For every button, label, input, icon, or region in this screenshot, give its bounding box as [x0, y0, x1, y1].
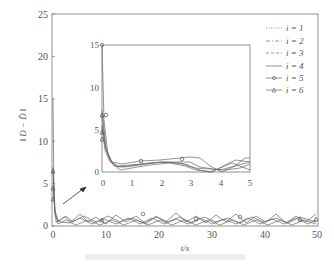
svg-text:i = 3: i = 3 — [286, 48, 304, 58]
svg-text:10: 10 — [101, 229, 111, 240]
svg-text:i = 2: i = 2 — [286, 36, 304, 46]
svg-text:i = 5: i = 5 — [286, 73, 304, 83]
svg-text:50: 50 — [312, 229, 322, 240]
svg-text:15: 15 — [38, 93, 48, 104]
svg-text:20: 20 — [38, 51, 48, 62]
svg-text:0: 0 — [43, 220, 48, 231]
svg-text:15: 15 — [90, 40, 100, 50]
error-norm-chart: 0510 152025 01020 304050 t/s ‖ D − D̂ ‖ … — [0, 0, 334, 265]
zoom-arrow — [63, 187, 86, 204]
svg-text:10: 10 — [38, 136, 48, 147]
x-axis-tick-labels: 01020 304050 — [51, 229, 323, 240]
svg-text:2: 2 — [160, 178, 165, 188]
inset-plot: 051015 012 345 — [90, 40, 253, 188]
svg-text:i = 6: i = 6 — [286, 85, 304, 95]
y-axis-label: ‖ D − D̂ ‖ — [18, 108, 28, 141]
svg-text:10: 10 — [90, 83, 100, 93]
svg-text:25: 25 — [38, 9, 48, 20]
legend: i = 1i = 2i = 3 i = 4i = 5i = 6 — [266, 23, 304, 95]
svg-text:5: 5 — [95, 125, 100, 135]
main-markers — [51, 169, 318, 222]
svg-text:0: 0 — [51, 229, 56, 240]
svg-text:4: 4 — [219, 178, 224, 188]
svg-text:0: 0 — [95, 167, 100, 177]
svg-text:30: 30 — [207, 229, 217, 240]
figure-caption — [85, 254, 245, 260]
svg-text:5: 5 — [248, 178, 253, 188]
svg-text:5: 5 — [43, 178, 48, 189]
svg-text:1: 1 — [130, 178, 135, 188]
svg-text:3: 3 — [189, 178, 194, 188]
x-axis-label: t/s — [181, 243, 190, 253]
svg-text:40: 40 — [260, 229, 270, 240]
svg-text:i = 1: i = 1 — [286, 23, 304, 33]
svg-text:i = 4: i = 4 — [286, 61, 304, 71]
svg-text:20: 20 — [154, 229, 164, 240]
svg-text:0: 0 — [101, 178, 106, 188]
y-axis-tick-labels: 0510 152025 — [38, 9, 48, 231]
